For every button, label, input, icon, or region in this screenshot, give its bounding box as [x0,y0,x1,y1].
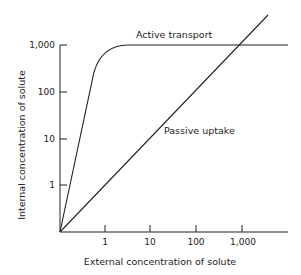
x-axis-title: External concentration of solute [84,256,237,267]
passive-uptake-label: Passive uptake [164,125,235,136]
active-transport-line [60,45,288,232]
y-tick-labels: 1,000 100 10 1 [29,40,55,190]
x-tick-labels: 1 10 100 1,000 [102,237,256,247]
passive-uptake-line [60,15,268,232]
chart-svg: 1,000 100 10 1 1 10 100 1,000 External c… [0,0,301,275]
y-tick-1000: 1,000 [29,40,55,50]
active-transport-label: Active transport [136,29,213,40]
x-tick-1000: 1,000 [230,237,256,247]
x-tick-1: 1 [102,237,108,247]
y-tick-100: 100 [38,87,55,97]
x-tick-100: 100 [187,237,204,247]
y-ticks [60,45,67,185]
y-axis-title: Internal concentration of solute [16,70,27,220]
y-tick-1: 1 [49,180,55,190]
y-tick-10: 10 [44,134,56,144]
chart-canvas: 1,000 100 10 1 1 10 100 1,000 External c… [0,0,301,275]
x-ticks [105,225,242,232]
x-tick-10: 10 [144,237,156,247]
